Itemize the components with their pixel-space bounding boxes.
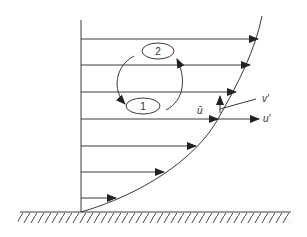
wall: [18, 212, 291, 223]
u-prime-label: u′: [263, 113, 272, 124]
v-prime-direction-line: [220, 99, 256, 109]
mean-velocity-label: ū: [197, 105, 203, 116]
v-prime-label: v′: [262, 93, 270, 104]
eddy-1-label: 1: [140, 101, 146, 112]
fluctuation-vectors: [218, 96, 259, 119]
eddy-1: 1: [126, 98, 160, 114]
eddy-2: 2: [142, 43, 174, 59]
eddy-up-arrow: [166, 59, 182, 110]
velocity-profile-curve: [81, 16, 262, 212]
eddy-2-label: 2: [155, 46, 161, 57]
eddy-down-arrow: [117, 56, 134, 104]
boundary-layer-diagram: ū v′ u′ 2 1: [0, 0, 307, 237]
